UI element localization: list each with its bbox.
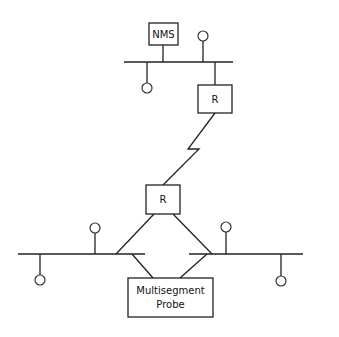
network-diagram: NMS R R — [0, 0, 339, 337]
bottom-left-lan-segment — [18, 223, 145, 285]
host-icon — [198, 31, 208, 41]
router-to-right-bus — [173, 214, 212, 254]
host-icon — [276, 276, 286, 286]
top-lan-segment: NMS — [124, 23, 233, 93]
multisegment-probe-node: Multisegment Probe — [128, 278, 213, 317]
router-top-node: R — [198, 85, 232, 113]
probe-label-line2: Probe — [156, 299, 184, 310]
probe-box — [128, 278, 213, 317]
router-to-left-bus — [116, 214, 154, 254]
router-top-label: R — [212, 94, 219, 105]
nms-label: NMS — [152, 29, 174, 40]
host-icon — [35, 275, 45, 285]
router-bottom-label: R — [160, 194, 167, 205]
router-bottom-node: R — [146, 185, 180, 214]
right-bus-to-probe — [180, 254, 207, 278]
host-icon — [221, 222, 231, 232]
wan-link-zigzag — [163, 113, 215, 185]
probe-label-line1: Multisegment — [136, 285, 204, 296]
nms-node: NMS — [149, 23, 178, 45]
left-bus-to-probe — [132, 254, 153, 278]
host-icon — [90, 223, 100, 233]
host-icon — [142, 83, 152, 93]
